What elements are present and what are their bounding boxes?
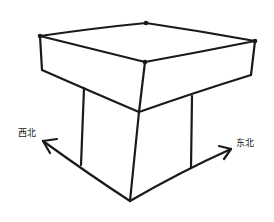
slab-right-edge [251,41,255,75]
slab-top-face [40,23,255,62]
slab-bottom-right [139,75,251,112]
pillar-left-edge [81,88,84,165]
slab-bottom-left [42,70,139,112]
sketch-drawing [0,0,274,222]
slab-left-edge [40,36,42,70]
northwest-axis [43,141,130,201]
slab-front-edge [139,62,145,112]
diagram-canvas: 西北 东北 [0,0,274,222]
vertex-dot [143,60,148,65]
northwest-label: 西北 [18,126,36,139]
northeast-label: 东北 [236,136,254,149]
pillar-front-edge [130,112,139,201]
vertex-dot [253,39,258,44]
vertex-dot [144,21,149,26]
pillar-right-edge [191,96,192,168]
northeast-axis [130,149,231,201]
vertex-dot [38,34,43,39]
